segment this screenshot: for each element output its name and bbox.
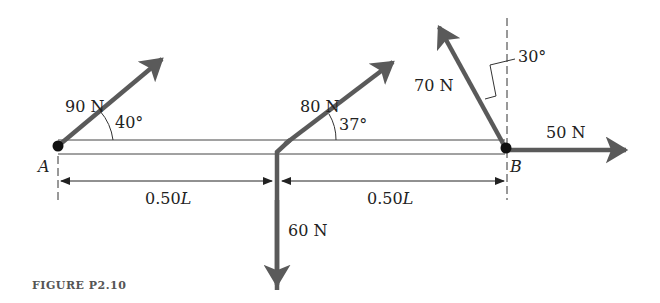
angle-arc-37	[329, 114, 336, 140]
label-70n: 70 N	[414, 76, 453, 95]
dimension-label-2: 0.50L	[367, 189, 413, 208]
label-90n: 90 N	[65, 97, 104, 116]
label-30-deg: 30°	[518, 47, 546, 66]
dimension-label-1: 0.50L	[145, 189, 191, 208]
label-point-b: B	[509, 157, 522, 176]
figure-p2-10: 90 N 40° 80 N 37° 60 N 70 N 30° 50 N A B…	[0, 0, 660, 303]
dimension-value-1: 0.50	[145, 189, 181, 208]
label-80n: 80 N	[300, 97, 339, 116]
label-point-a: A	[36, 157, 50, 176]
dimension-value-2: 0.50	[367, 189, 403, 208]
dimension-var-1: L	[180, 189, 192, 208]
force-diagram: 90 N 40° 80 N 37° 60 N 70 N 30° 50 N A B…	[0, 0, 660, 303]
point-b	[501, 143, 512, 154]
label-37-deg: 37°	[339, 115, 367, 134]
figure-caption: FIGURE P2.10	[32, 279, 126, 292]
point-a	[53, 141, 64, 152]
label-40-deg: 40°	[115, 113, 143, 132]
dimension-var-2: L	[402, 189, 414, 208]
angle-bracket-30	[485, 59, 515, 99]
label-50n: 50 N	[546, 123, 585, 142]
label-60n: 60 N	[288, 221, 327, 240]
